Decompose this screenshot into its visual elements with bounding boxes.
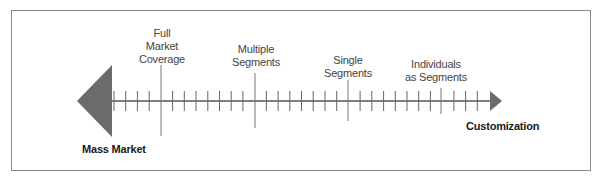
label-line: Single xyxy=(324,54,372,67)
marker-label-multiple-segments: Multiple Segments xyxy=(232,43,280,69)
label-line: as Segments xyxy=(405,71,467,84)
marker-label-single-segments: Single Segments xyxy=(324,54,372,80)
label-line: Segments xyxy=(324,67,372,80)
label-line: Full xyxy=(139,27,185,40)
label-line: Individuals xyxy=(405,58,467,71)
customization-arrow-icon xyxy=(490,91,502,111)
mass-market-label: Mass Market xyxy=(82,143,146,155)
label-line: Multiple xyxy=(232,43,280,56)
marker-label-full-market-coverage: Full Market Coverage xyxy=(139,27,185,66)
mass-market-triangle-icon xyxy=(77,65,112,137)
label-line: Segments xyxy=(232,56,280,69)
label-line: Coverage xyxy=(139,53,185,66)
customization-label: Customization xyxy=(466,120,539,132)
marker-label-individuals-as-segments: Individuals as Segments xyxy=(405,58,467,84)
label-line: Market xyxy=(139,40,185,53)
